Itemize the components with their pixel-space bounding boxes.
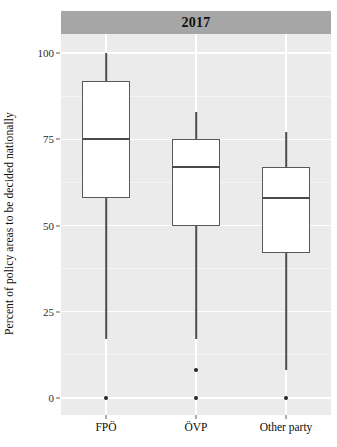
facet-strip-label: 2017: [181, 15, 210, 31]
facet-strip-header: 2017: [61, 11, 331, 34]
y-axis-tick-mark: [56, 398, 60, 399]
y-axis-tick-marks: [56, 0, 60, 447]
x-axis-tick-label: ÖVP: [184, 421, 207, 435]
boxplot-group: [262, 34, 310, 415]
whisker-lower: [285, 253, 287, 370]
boxplot-figure: Percent of policy areas to be decided na…: [0, 0, 337, 447]
boxplot-group: [172, 34, 220, 415]
y-axis-tick-mark: [56, 311, 60, 312]
whisker-upper: [105, 53, 107, 81]
x-axis-tick-mark: [286, 415, 287, 419]
whisker-lower: [105, 198, 107, 339]
box-iqr: [262, 167, 310, 253]
outlier-point: [194, 368, 198, 372]
median-line: [262, 197, 310, 199]
whisker-lower: [195, 226, 197, 340]
x-axis-tick-labels: FPÖÖVPOther party: [61, 421, 331, 439]
median-line: [82, 138, 130, 140]
y-axis-tick-labels: 0255075100: [20, 0, 54, 447]
outlier-point: [194, 396, 198, 400]
x-axis-tick-marks: [61, 415, 331, 419]
boxplot-group: [82, 34, 130, 415]
y-axis-title: Percent of policy areas to be decided na…: [0, 0, 18, 447]
y-axis-tick-label: 0: [20, 393, 54, 404]
x-axis-tick-label: FPÖ: [95, 421, 116, 435]
y-axis-tick-label: 50: [20, 220, 54, 231]
y-axis-tick-mark: [56, 53, 60, 54]
y-axis-tick-label: 75: [20, 134, 54, 145]
whisker-upper: [285, 132, 287, 167]
outlier-point: [284, 396, 288, 400]
y-axis-tick-mark: [56, 225, 60, 226]
median-line: [172, 166, 220, 168]
y-axis-tick-label: 100: [20, 48, 54, 59]
x-axis-tick-mark: [106, 415, 107, 419]
whisker-upper: [195, 112, 197, 140]
box-iqr: [172, 139, 220, 225]
plot-panel: [61, 34, 331, 415]
outlier-point: [104, 396, 108, 400]
x-axis-tick-label: Other party: [260, 421, 313, 435]
x-axis-tick-mark: [196, 415, 197, 419]
y-axis-tick-label: 25: [20, 306, 54, 317]
y-axis-tick-mark: [56, 139, 60, 140]
